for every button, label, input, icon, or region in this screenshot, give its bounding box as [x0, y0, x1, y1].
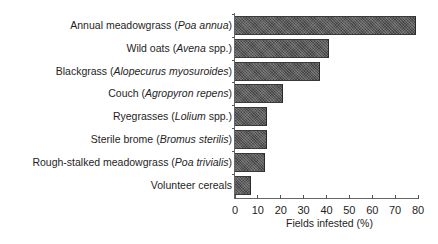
bar	[235, 84, 283, 103]
category-label: Wild oats (Avena spp.)	[127, 39, 232, 58]
bar	[235, 39, 329, 58]
x-tick	[303, 195, 304, 199]
category-label: Annual meadowgrass (Poa annua)	[70, 16, 232, 35]
bar	[235, 153, 265, 172]
x-tick	[418, 195, 419, 199]
x-tick	[235, 195, 236, 199]
x-axis-label: Fields infested (%)	[286, 217, 373, 229]
category-label: Blackgrass (Alopecurus myosuroides)	[56, 62, 232, 81]
x-tick-label: 10	[246, 204, 270, 216]
category-label: Rough-stalked meadowgrass (Poa trivialis…	[32, 153, 232, 172]
x-tick	[349, 195, 350, 199]
y-axis-line	[234, 13, 235, 199]
x-tick-label: 20	[269, 204, 293, 216]
bar	[235, 62, 320, 81]
x-tick-label: 30	[292, 204, 316, 216]
bar	[235, 176, 251, 195]
category-label: Sterile brome (Bromus sterilis)	[91, 130, 232, 149]
horizontal-bar-chart: Annual meadowgrass (Poa annua)Wild oats …	[0, 0, 438, 244]
x-tick	[280, 195, 281, 199]
x-tick-label: 80	[406, 204, 430, 216]
x-tick-label: 70	[383, 204, 407, 216]
x-tick	[395, 195, 396, 199]
x-tick	[326, 195, 327, 199]
category-label: Couch (Agropyron repens)	[108, 84, 232, 103]
bar	[235, 107, 267, 126]
category-label: Volunteer cereals	[151, 176, 232, 195]
x-tick-label: 60	[360, 204, 384, 216]
category-label: Ryegrasses (Lolium spp.)	[113, 107, 232, 126]
x-tick-label: 40	[315, 204, 339, 216]
x-tick	[372, 195, 373, 199]
x-tick-label: 50	[337, 204, 361, 216]
bar	[235, 130, 267, 149]
x-tick-label: 0	[223, 204, 247, 216]
x-tick	[257, 195, 258, 199]
bar	[235, 16, 416, 35]
